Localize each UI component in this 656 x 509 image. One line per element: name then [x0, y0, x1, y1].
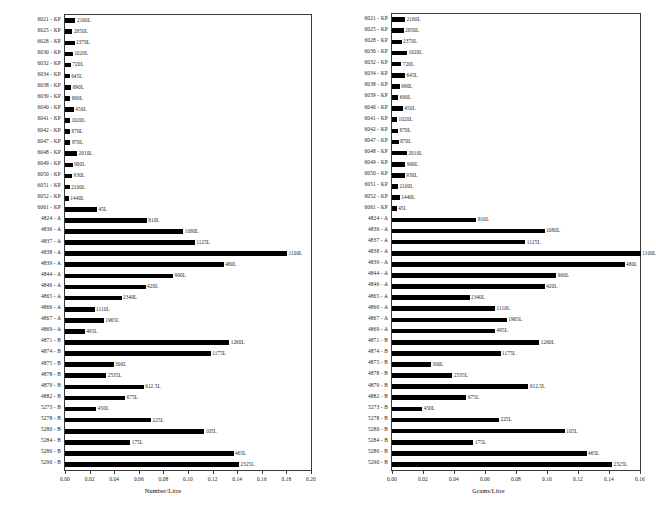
- bar-row: 690L: [65, 85, 84, 90]
- bar: [392, 362, 431, 367]
- bar-row: 175L: [392, 440, 486, 445]
- bar-row: 2850L: [392, 28, 419, 33]
- bar-row: 45L: [65, 207, 107, 212]
- x-tick-label: 0.06: [480, 476, 490, 482]
- bar: [392, 195, 400, 200]
- bar: [65, 85, 71, 90]
- bar: [65, 240, 195, 245]
- category-label: 4869 - A: [3, 327, 61, 332]
- bar-value-label: 420L: [546, 284, 557, 289]
- bar-row: 2370L: [392, 39, 417, 44]
- bar-value-label: 1020L: [408, 50, 422, 55]
- x-tick-mark: [485, 471, 486, 474]
- bar-value-label: 465L: [235, 451, 246, 456]
- bar-row: 2100L: [65, 185, 85, 190]
- category-label: 4839 - A: [330, 260, 388, 265]
- bar-row: 870L: [65, 140, 83, 145]
- bar-rows-left: 2160L2850L2370L1020L720L645L690L690L450L…: [65, 15, 311, 470]
- bar-value-label: 465L: [588, 451, 599, 456]
- category-label: 6028 - KP: [330, 38, 388, 43]
- bar-value-label: 1260L: [541, 340, 555, 345]
- bar-row: 1080L: [392, 228, 560, 233]
- bar-row: 2340L: [392, 295, 485, 300]
- category-label: 4869 - A: [330, 327, 388, 332]
- bar: [392, 329, 495, 334]
- category-label: 4866 - A: [330, 305, 388, 310]
- bar: [65, 118, 70, 123]
- bar-row: 1440L: [65, 196, 84, 201]
- category-label: 6041 - KP: [3, 116, 61, 121]
- bar-row: 175L: [65, 440, 143, 445]
- category-label: 4838 - A: [3, 250, 61, 255]
- bar-row: 612.5L: [65, 384, 161, 389]
- bar-value-label: 810L: [478, 217, 489, 222]
- bar: [65, 440, 130, 445]
- bar-value-label: 2850L: [405, 28, 419, 33]
- category-label: 4844 - A: [330, 271, 388, 276]
- category-label: 5284 - B: [330, 438, 388, 443]
- category-label: 6032 - KP: [330, 60, 388, 65]
- x-axis-title-right: Grams/Litre: [326, 487, 651, 494]
- category-label: 4878 - B: [330, 371, 388, 376]
- bar-row: 225L: [65, 418, 164, 423]
- bar-value-label: 2850L: [74, 29, 88, 34]
- bar: [392, 95, 398, 100]
- category-label: 4837 - A: [3, 239, 61, 244]
- bar: [65, 163, 73, 168]
- bar-value-label: 300L: [115, 362, 126, 367]
- bar-row: 1020L: [392, 117, 413, 122]
- category-label: 5280 - B: [3, 427, 61, 432]
- category-label: 5273 - B: [3, 405, 61, 410]
- bar: [392, 184, 398, 189]
- bar-value-label: 645L: [71, 74, 82, 79]
- bar-value-label: 450L: [98, 406, 109, 411]
- bar-row: 1260L: [392, 340, 555, 345]
- bar-row: 480L: [392, 262, 637, 267]
- bar-row: 810L: [392, 217, 489, 222]
- bar: [392, 306, 495, 311]
- category-label: 6034 - KP: [330, 71, 388, 76]
- x-tick-mark: [286, 471, 287, 474]
- category-label: 6041 - KP: [330, 116, 388, 121]
- category-label: 4836 - A: [330, 227, 388, 232]
- category-label: 6052 - KP: [3, 194, 61, 199]
- category-label: 4882 - B: [330, 394, 388, 399]
- bar-row: 690L: [392, 84, 413, 89]
- category-label: 4865 - A: [3, 294, 61, 299]
- bar-row: 420L: [392, 284, 558, 289]
- plot-area-right: 2160L2850L2370L1020L720L645L690L690L450L…: [391, 13, 641, 471]
- bar-value-label: 1100L: [289, 251, 303, 256]
- bar-value-label: 175L: [132, 440, 143, 445]
- bar-row: 480L: [65, 262, 237, 267]
- category-label: 6061 - KP: [330, 205, 388, 210]
- category-label: 4836 - A: [3, 227, 61, 232]
- bar: [65, 218, 147, 223]
- bar-row: 1965L: [392, 317, 522, 322]
- x-tick-mark: [392, 471, 393, 474]
- category-label: 6048 - KP: [3, 150, 61, 155]
- x-tick-mark: [578, 471, 579, 474]
- bar-value-label: 225L: [500, 417, 511, 422]
- category-label: 6047 - KP: [3, 139, 61, 144]
- x-tick-mark: [237, 471, 238, 474]
- bar-row: 225L: [392, 417, 512, 422]
- bar: [65, 362, 114, 367]
- bar-value-label: 2325L: [614, 462, 628, 467]
- bar-value-label: 930L: [74, 173, 85, 178]
- bar-row: 450L: [65, 406, 109, 411]
- category-label: 4871 - B: [330, 338, 388, 343]
- bar-row: 1100L: [392, 251, 656, 256]
- bar-value-label: 1020L: [74, 51, 88, 56]
- bar: [392, 206, 397, 211]
- bar-value-label: 495L: [86, 329, 97, 334]
- bar-value-label: 1080L: [546, 228, 560, 233]
- bar-value-label: 1080L: [185, 229, 199, 234]
- category-label: 6049 - KP: [330, 160, 388, 165]
- bar-value-label: 1965L: [508, 317, 522, 322]
- bar: [392, 429, 565, 434]
- bar-row: 1175L: [392, 351, 516, 356]
- bar: [65, 340, 229, 345]
- bar-row: 2325L: [65, 462, 255, 467]
- bar-value-label: 1965L: [105, 318, 119, 323]
- bar-value-label: 1110L: [497, 306, 511, 311]
